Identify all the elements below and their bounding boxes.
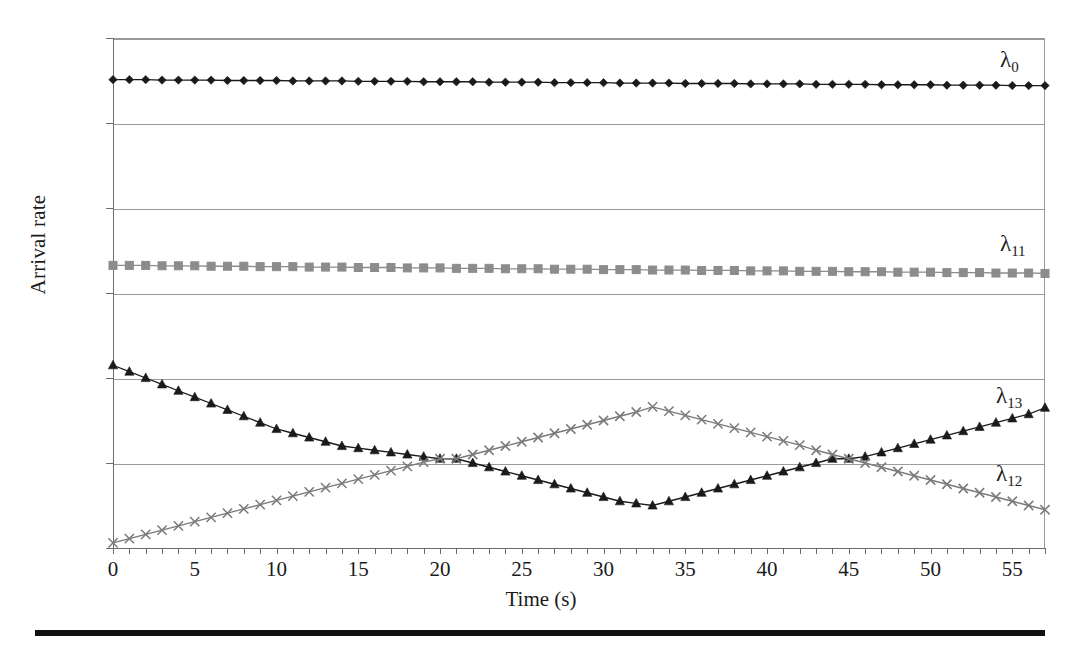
data-point-marker [223,76,231,84]
data-point-marker [305,487,314,496]
data-point-marker [370,470,379,479]
data-point-marker [534,433,543,442]
data-point-marker [174,76,182,84]
data-point-marker [649,266,657,274]
data-point-marker [910,471,919,480]
data-point-marker [174,521,183,530]
series-label-symbol: λ [1000,231,1011,256]
data-point-marker [273,263,281,271]
data-point-marker [959,81,967,89]
data-point-marker [746,80,754,88]
data-point-marker [714,79,722,87]
bottom-rule [35,630,1045,636]
data-point-marker [664,407,673,416]
data-point-marker [108,538,117,547]
data-point-marker [469,264,477,272]
data-point-marker [387,264,395,272]
data-point-marker [600,266,608,274]
data-point-marker [681,411,690,420]
data-point-marker [812,267,820,275]
series-lambda_12 [108,402,1049,547]
data-point-marker [877,268,885,276]
data-point-marker [665,266,673,274]
data-point-marker [583,265,591,273]
data-point-marker [796,80,804,88]
data-point-marker [943,269,951,277]
data-point-marker [763,80,771,88]
series-label-symbol: λ [996,383,1007,408]
data-point-marker [567,78,575,86]
data-point-marker [534,78,542,86]
data-point-marker [975,488,984,497]
data-point-marker [289,263,297,271]
data-point-marker [616,79,624,87]
data-point-marker [893,467,902,476]
data-point-marker [976,269,984,277]
series-label-subscript: 0 [1011,59,1019,75]
data-point-marker [191,262,199,270]
data-point-marker [648,402,657,411]
data-point-marker [845,268,853,276]
data-point-marker [142,261,150,269]
data-point-marker [894,268,902,276]
data-point-marker [632,79,640,87]
data-point-marker [158,262,166,270]
y-axis-title: Arrival rate [26,145,51,345]
series-lambda_13 [108,360,1049,509]
data-point-marker [403,462,412,471]
data-point-marker [240,262,248,270]
data-point-marker [861,268,869,276]
data-point-marker [305,77,313,85]
data-point-marker [1008,269,1016,277]
data-point-marker [322,263,330,271]
data-point-marker [191,76,199,84]
data-point-marker [665,79,673,87]
data-point-marker [485,78,493,86]
data-point-marker [697,415,706,424]
data-point-marker [566,424,575,433]
data-point-marker [256,263,264,271]
data-point-marker [1040,505,1049,514]
data-point-marker [354,264,362,272]
data-point-marker [583,420,592,429]
series-label-subscript: 12 [1007,473,1022,489]
data-point-marker [452,78,460,86]
data-point-marker [779,267,787,275]
data-point-marker [894,81,902,89]
data-point-marker [861,80,869,88]
data-point-marker [1040,403,1049,412]
data-point-marker [599,416,608,425]
data-point-marker [796,267,804,275]
data-point-marker [795,441,804,450]
data-point-marker [877,463,886,472]
data-point-marker [108,360,117,369]
data-point-marker [550,429,559,438]
data-point-marker [534,265,542,273]
data-point-marker [207,513,216,522]
data-point-marker [992,81,1000,89]
data-point-marker [942,480,951,489]
data-point-marker [338,263,346,271]
data-point-marker [158,76,166,84]
series-label-symbol: λ [1000,47,1011,72]
data-point-marker [321,77,329,85]
data-point-marker [142,75,150,83]
data-point-marker [1041,81,1049,89]
data-point-marker [583,78,591,86]
data-point-marker [174,262,182,270]
data-point-marker [141,530,150,539]
data-point-marker [648,79,656,87]
data-point-marker [926,475,935,484]
data-point-marker [730,424,739,433]
data-point-marker [518,265,526,273]
data-point-marker [959,269,967,277]
data-point-marker [599,78,607,86]
series-lambda_0 [109,75,1049,89]
data-point-marker [926,81,934,89]
data-point-marker [223,509,232,518]
series-label-lambda_11: λ11 [1000,232,1026,255]
data-point-marker [616,266,624,274]
chart-plot: 020406080100120 0510152025303540455055 λ… [0,0,1082,600]
data-point-marker [403,264,411,272]
data-point-marker [337,479,346,488]
